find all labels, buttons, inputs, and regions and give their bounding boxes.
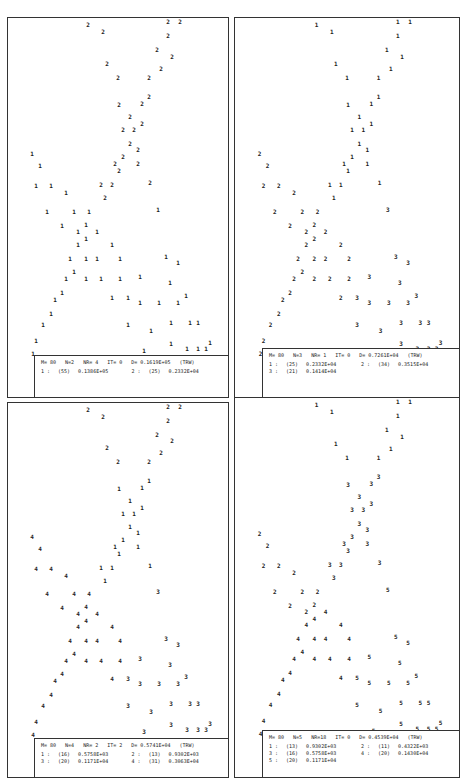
data-point: 1 — [370, 121, 374, 127]
data-point: 5 — [418, 700, 422, 706]
cluster-id: 1 : — [41, 751, 50, 758]
data-point: 4 — [53, 678, 57, 684]
cluster-value: 0.9302E+03 — [306, 743, 336, 750]
data-point: 1 — [339, 182, 343, 188]
cluster-value: 0.1171E+04 — [78, 758, 108, 765]
cluster-entry: 2 :(34)0.3515E+04 — [361, 361, 453, 368]
cluster-id: 1 : — [41, 368, 50, 375]
data-point: 4 — [60, 671, 64, 677]
data-point: 4 — [72, 651, 76, 657]
data-point: 1 — [196, 346, 200, 352]
data-point: 4 — [324, 636, 328, 642]
data-point: 3 — [350, 534, 354, 540]
data-point: 1 — [128, 524, 132, 530]
data-point: 1 — [156, 207, 160, 213]
data-point: 1 — [147, 478, 151, 484]
data-point: 3 — [342, 541, 346, 547]
data-point: 5 — [427, 700, 431, 706]
data-point: 2 — [121, 154, 125, 160]
cluster-entry: 2 :(11)0.4322E+03 — [361, 743, 453, 750]
data-point: 1 — [72, 209, 76, 215]
cluster-count: (13) — [149, 751, 161, 758]
data-point: 4 — [84, 638, 88, 644]
data-point: 1 — [208, 340, 212, 346]
data-point: 1 — [126, 295, 130, 301]
data-point: 4 — [84, 604, 88, 610]
cluster-count: (11) — [378, 743, 390, 750]
data-point: 3 — [339, 562, 343, 568]
cluster-id: 2 : — [361, 743, 370, 750]
data-point: 3 — [138, 681, 142, 687]
data-point: 1 — [396, 413, 400, 419]
data-point: 2 — [121, 127, 125, 133]
cluster-id: 4 : — [361, 750, 370, 757]
data-point: 2 — [300, 269, 304, 275]
data-point: 4 — [313, 616, 317, 622]
cluster-id: 1 : — [269, 743, 278, 750]
cluster-id: 2 : — [132, 368, 141, 375]
data-point: 2 — [316, 209, 320, 215]
data-point: 3 — [394, 254, 398, 260]
data-point: 2 — [178, 19, 182, 25]
cluster-count: (13) — [286, 743, 298, 750]
data-point: 3 — [357, 494, 361, 500]
data-point: 4 — [72, 591, 76, 597]
data-point: 2 — [288, 223, 292, 229]
data-point: 1 — [128, 498, 132, 504]
data-point: 3 — [350, 507, 354, 513]
data-point: 4 — [281, 677, 285, 683]
data-point: 2 — [170, 54, 174, 60]
data-point: 3 — [169, 722, 173, 728]
data-point: 1 — [149, 328, 153, 334]
data-point: 1 — [84, 256, 88, 262]
data-point: 1 — [84, 236, 88, 242]
data-point: 4 — [87, 591, 91, 597]
data-point: 5 — [399, 721, 403, 727]
cluster-value: 0.3063E+04 — [169, 758, 199, 765]
data-point: 2 — [281, 297, 285, 303]
data-point: 1 — [396, 399, 400, 405]
data-point: 3 — [366, 527, 370, 533]
data-point: 4 — [60, 605, 64, 611]
cluster-entry: 3 :(21)0.1414E+04 — [269, 368, 365, 375]
data-point: 1 — [136, 530, 140, 536]
data-point: 1 — [396, 19, 400, 25]
data-point: 5 — [399, 700, 403, 706]
data-point: 5 — [398, 660, 402, 666]
cluster-entry: 2 :(13)0.9302E+03 — [132, 751, 223, 758]
data-point: 3 — [379, 328, 383, 334]
data-point: 1 — [84, 222, 88, 228]
data-point: 2 — [105, 445, 109, 451]
data-point: 1 — [345, 455, 349, 461]
data-point: 1 — [136, 544, 140, 550]
data-point: 3 — [184, 674, 188, 680]
data-point: 2 — [304, 242, 308, 248]
data-point: 1 — [330, 29, 334, 35]
legend-header: M= 80 N=5 NR=18 IT= 0 D= 0.4539E+04 (TRW… — [269, 734, 453, 741]
data-point: 2 — [316, 589, 320, 595]
data-point: 1 — [357, 141, 361, 147]
data-point: 2 — [148, 180, 152, 186]
cluster-value: 0.1430E+04 — [398, 750, 428, 757]
data-point: 3 — [399, 341, 403, 347]
data-point: 2 — [266, 163, 270, 169]
data-point: 1 — [38, 163, 42, 169]
legend-header: M= 80 N=4 NR= 2 IT= 2 D= 0.5741E+04 (TRW… — [41, 742, 222, 749]
data-point: 3 — [355, 295, 359, 301]
data-point: 1 — [103, 578, 107, 584]
data-point: 1 — [117, 486, 121, 492]
cluster-count: (16) — [286, 750, 298, 757]
cluster-entry: 3 :(20)0.1171E+04 — [41, 758, 132, 765]
cluster-value: 0.2332E+04 — [169, 368, 199, 375]
data-point: 2 — [136, 147, 140, 153]
data-point: 1 — [95, 229, 99, 235]
data-point: 2 — [262, 183, 266, 189]
cluster-value: 0.1386E+05 — [78, 368, 108, 375]
data-point: 2 — [116, 459, 120, 465]
data-point: 4 — [300, 649, 304, 655]
cluster-id: 2 : — [361, 361, 370, 368]
data-point: 3 — [386, 207, 390, 213]
data-point: 1 — [168, 280, 172, 286]
data-point: 2 — [147, 75, 151, 81]
data-point: 1 — [53, 297, 57, 303]
